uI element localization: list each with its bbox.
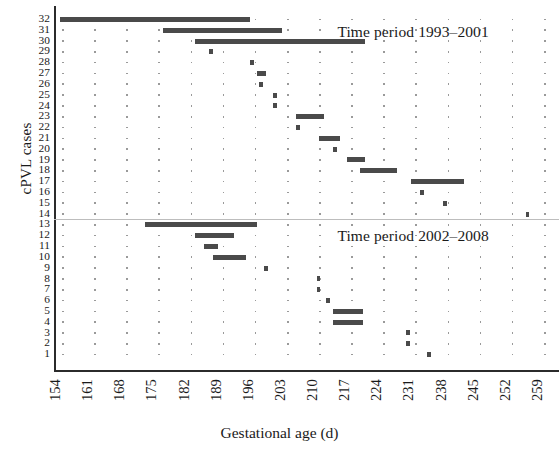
grid-dot	[319, 94, 321, 96]
grid-dot	[94, 148, 96, 150]
grid-dot	[94, 354, 96, 356]
case-bar-16	[420, 190, 424, 195]
grid-dot	[255, 138, 257, 140]
grid-dot	[223, 170, 225, 172]
grid-dot	[94, 105, 96, 107]
grid-dot	[415, 192, 417, 194]
grid-dot	[287, 202, 289, 204]
grid-dot	[62, 40, 64, 42]
grid-dot	[319, 105, 321, 107]
grid-dot	[448, 73, 450, 75]
case-bar-7	[317, 287, 321, 292]
case-bar-27	[257, 71, 266, 76]
grid-dot	[351, 62, 353, 64]
case-bar-11	[204, 244, 218, 249]
grid-dot	[383, 51, 385, 53]
grid-dot	[383, 289, 385, 291]
grid-dot	[319, 202, 321, 204]
grid-dot	[94, 127, 96, 129]
grid-dot	[158, 73, 160, 75]
grid-dot	[62, 332, 64, 334]
grid-dot	[126, 159, 128, 161]
grid-dot	[255, 278, 257, 280]
grid-dot	[94, 235, 96, 237]
grid-dot	[158, 105, 160, 107]
grid-dot	[512, 116, 514, 118]
case-bar-26	[259, 82, 263, 87]
grid-dot	[94, 40, 96, 42]
grid-dot	[62, 116, 64, 118]
grid-dot	[287, 343, 289, 345]
grid-dot	[383, 94, 385, 96]
grid-dot	[383, 148, 385, 150]
grid-dot	[480, 202, 482, 204]
grid-dot	[512, 138, 514, 140]
grid-dot	[319, 181, 321, 183]
grid-dot	[191, 300, 193, 302]
grid-dot	[512, 170, 514, 172]
grid-dot	[94, 29, 96, 31]
grid-dot	[158, 235, 160, 237]
grid-dot	[191, 138, 193, 140]
grid-dot	[512, 62, 514, 64]
grid-dot	[62, 343, 64, 345]
grid-dot	[319, 192, 321, 194]
grid-dot	[351, 94, 353, 96]
grid-dot	[512, 332, 514, 334]
grid-dot	[544, 235, 546, 237]
grid-dot	[448, 192, 450, 194]
grid-dot	[383, 354, 385, 356]
grid-dot	[319, 332, 321, 334]
grid-dot	[191, 311, 193, 313]
grid-dot	[512, 267, 514, 269]
grid-dot	[126, 105, 128, 107]
case-bar-3	[406, 330, 410, 335]
grid-dot	[480, 181, 482, 183]
grid-dot	[480, 332, 482, 334]
grid-dot	[512, 159, 514, 161]
grid-dot	[94, 192, 96, 194]
grid-dot	[94, 181, 96, 183]
grid-dot	[319, 19, 321, 21]
grid-dot	[255, 311, 257, 313]
grid-dot	[255, 300, 257, 302]
grid-dot	[158, 343, 160, 345]
grid-dot	[223, 159, 225, 161]
grid-dot	[191, 159, 193, 161]
grid-dot	[62, 321, 64, 323]
grid-dot	[480, 73, 482, 75]
grid-dot	[287, 105, 289, 107]
grid-dot	[191, 51, 193, 53]
grid-dot	[415, 19, 417, 21]
grid-dot	[94, 202, 96, 204]
grid-dot	[448, 170, 450, 172]
grid-dot	[158, 213, 160, 215]
grid-dot	[223, 289, 225, 291]
grid-dot	[62, 181, 64, 183]
grid-dot	[480, 343, 482, 345]
y-axis-line	[54, 6, 56, 372]
grid-dot	[94, 94, 96, 96]
grid-dot	[158, 354, 160, 356]
grid-dot	[512, 51, 514, 53]
grid-dot	[94, 170, 96, 172]
grid-dot	[158, 332, 160, 334]
grid-dot	[223, 116, 225, 118]
grid-dot	[448, 289, 450, 291]
x-tick-245: 245	[466, 368, 480, 412]
grid-dot	[512, 40, 514, 42]
grid-dot	[94, 51, 96, 53]
grid-dot	[62, 159, 64, 161]
grid-dot	[480, 138, 482, 140]
grid-dot	[287, 62, 289, 64]
grid-dot	[544, 40, 546, 42]
grid-dot	[544, 192, 546, 194]
grid-dot	[158, 148, 160, 150]
case-bar-19	[347, 157, 365, 162]
grid-dot	[383, 181, 385, 183]
grid-dot	[351, 83, 353, 85]
grid-dot	[448, 148, 450, 150]
grid-dot	[415, 83, 417, 85]
grid-dot	[62, 29, 64, 31]
grid-dot	[383, 311, 385, 313]
